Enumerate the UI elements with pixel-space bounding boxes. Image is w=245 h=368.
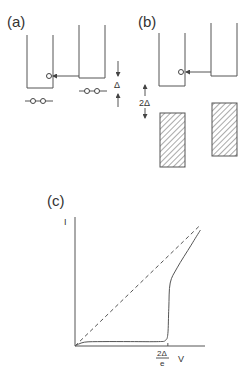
- panel-a-label: (a): [7, 13, 25, 30]
- left-filled-band: [160, 113, 185, 167]
- x-axis-label: V: [178, 354, 184, 364]
- two-delta-gap-label: 2Δ: [139, 98, 150, 108]
- right-pair-level: [79, 89, 107, 94]
- left-electrode-well: [159, 33, 185, 86]
- left-pair-level: [25, 99, 53, 104]
- threshold-numerator: 2Δ: [157, 349, 167, 358]
- threshold-denominator: e: [160, 359, 165, 368]
- y-axis-label: I: [64, 217, 67, 227]
- panel-b-label: (b): [138, 13, 156, 30]
- quasiparticle-circle: [47, 74, 52, 79]
- panel-c-label: (c): [47, 192, 65, 209]
- panel-c: (c) I V 2Δ e: [47, 192, 205, 368]
- right-electrode-well: [211, 23, 237, 76]
- panel-a: (a) Δ: [7, 13, 120, 107]
- sis-iv-curve: [75, 230, 200, 346]
- right-filled-band: [212, 103, 237, 156]
- figure-canvas: (a) Δ (b): [0, 0, 245, 368]
- left-electrode-well: [27, 35, 53, 88]
- quasiparticle-circle: [179, 70, 184, 75]
- delta-gap-label: Δ: [114, 80, 120, 90]
- right-electrode-well: [79, 25, 105, 78]
- panel-b: (b) 2Δ: [138, 13, 237, 167]
- ohmic-dashed-line: [75, 225, 200, 346]
